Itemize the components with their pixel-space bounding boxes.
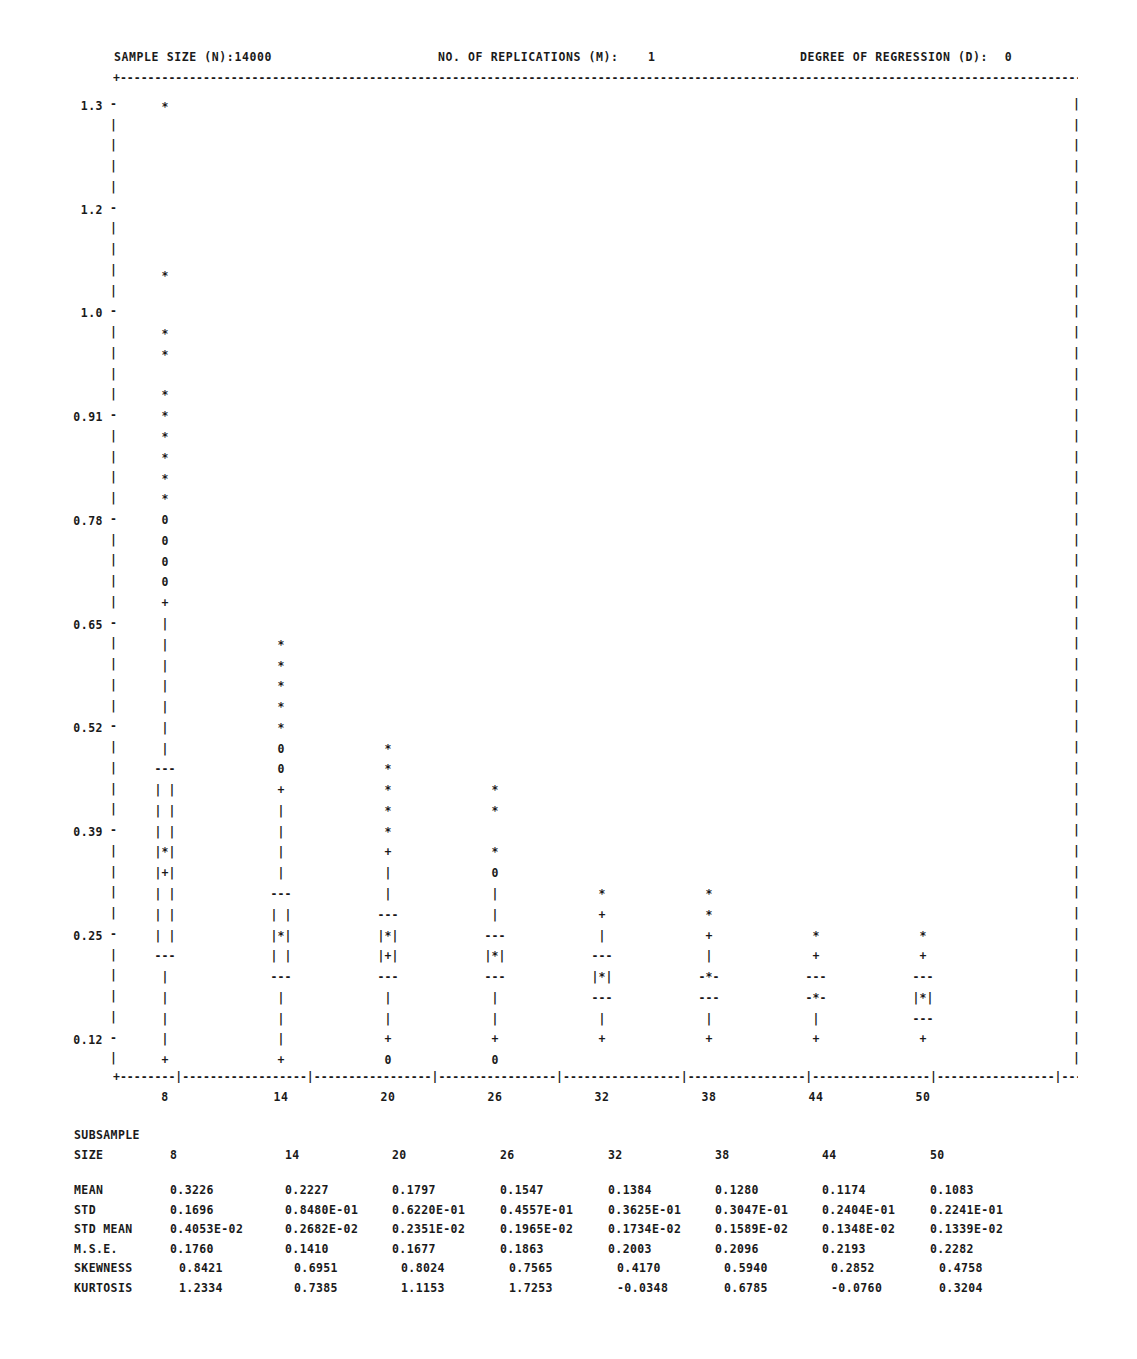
box-hinge-line: --- [786,972,846,984]
stat-cell: 0.4170 [617,1261,661,1275]
stat-cell: 0.2096 [715,1242,759,1256]
whisker-line: | [465,1014,525,1026]
plot-right-border-segment: | [1073,950,1080,962]
boxplot-column-14: *****00+||||---| ||*|| |---|||+ [251,0,311,1000]
stat-cell: 0.3625E-01 [608,1203,681,1217]
y-axis-line-segment: | [110,244,117,256]
outlier-star-marker: * [358,806,418,818]
stat-cell: 0.1174 [822,1183,866,1197]
y-axis-tick-label: 0.39 [55,825,103,839]
y-axis-tick-label: 0.12 [55,1033,103,1047]
boxplot-column-50: *+---|*|---+ [893,0,953,1000]
plot-right-border-segment: | [1073,555,1080,567]
outlier-star-marker: * [465,847,525,859]
y-axis-line-segment: | [110,680,117,692]
box-body-line: | | [251,910,311,922]
plot-right-border-segment: | [1073,265,1080,277]
box-median-marker: |*| [358,931,418,943]
x-axis-tick-label: 8 [135,1090,195,1104]
whisker-end-marker: + [786,951,846,963]
plot-right-border-segment: | [1073,472,1080,484]
table-spacer [0,1167,1137,1183]
whisker-line: | [135,723,195,735]
outlier-star-marker: * [251,640,311,652]
subsample-size-header: 14 [285,1148,300,1162]
y-axis-tick: - [110,721,117,733]
box-hinge-line: --- [465,931,525,943]
stat-cell: 0.1863 [500,1242,544,1256]
stat-row-label: KURTOSIS [74,1281,133,1295]
whisker-end-marker: + [893,1034,953,1046]
y-axis-line-segment: | [110,991,117,1003]
y-axis-tick-label: 0.25 [55,929,103,943]
stat-row-label: SKEWNESS [74,1261,133,1275]
whisker-line: | [251,847,311,859]
y-axis-line-segment: | [110,576,117,588]
stat-cell: 0.1677 [392,1242,436,1256]
size-label: SIZE [74,1148,103,1162]
outlier-star-marker: * [679,889,739,901]
x-axis-tick-label: 38 [679,1090,739,1104]
plot-right-border-segment: | [1073,825,1080,837]
plot-right-border-segment: | [1073,1033,1080,1045]
y-axis-line-segment: | [110,120,117,132]
box-median-marker: |*| [465,951,525,963]
box-hinge-line: --- [251,889,311,901]
plot-right-border-segment: | [1073,410,1080,422]
whisker-end-marker: + [358,1034,418,1046]
box-median-marker: |*| [572,972,632,984]
box-hinge-line: --- [465,972,525,984]
y-axis-tick: - [110,99,117,111]
stat-cell: 0.2682E-02 [285,1222,358,1236]
y-axis-line-segment: | [110,742,117,754]
outlier-circle-marker: 0 [135,577,195,589]
y-axis-line-segment: | [110,950,117,962]
stat-cell: 0.1547 [500,1183,544,1197]
whisker-line: | [135,681,195,693]
y-axis-line-segment: | [110,804,117,816]
outlier-circle-marker: 0 [465,1055,525,1067]
table-row: STD0.16960.8480E-010.6220E-010.4557E-010… [0,1203,1137,1223]
y-axis-line-segment: | [110,431,117,443]
whisker-end-marker: + [786,1034,846,1046]
box-body-line: | | [135,910,195,922]
y-axis-line-segment: | [110,265,117,277]
plot-right-border-segment: | [1073,286,1080,298]
plot-right-border-segment: | [1073,389,1080,401]
outlier-star-marker: * [679,910,739,922]
whisker-end-marker: + [572,1034,632,1046]
whisker-line: | [135,993,195,1005]
plot-right-border-segment: | [1073,784,1080,796]
x-axis-labels: 814202632384450 [0,1090,1137,1108]
y-axis-line-segment: | [110,327,117,339]
whisker-line: | [251,1014,311,1026]
plot-right-border-segment: | [1073,721,1080,733]
stat-cell: 0.1348E-02 [822,1222,895,1236]
y-axis-labels: 1.31.21.00.910.780.650.520.390.250.12 [55,0,103,1000]
whisker-line: | [135,744,195,756]
whisker-line: | [135,640,195,652]
stat-cell: 0.1965E-02 [500,1222,573,1236]
y-axis-line-segment: | [110,1053,117,1065]
stat-cell: 1.1153 [401,1281,445,1295]
box-hinge-line: --- [893,972,953,984]
box-hinge-line: --- [358,910,418,922]
table-row: M.S.E.0.17600.14100.16770.18630.20030.20… [0,1242,1137,1262]
y-axis-line-segment: | [110,182,117,194]
stat-cell: 0.1589E-02 [715,1222,788,1236]
box-body-line: | | [251,951,311,963]
stat-cell: 0.6951 [294,1261,338,1275]
stat-cell: 0.8421 [179,1261,223,1275]
whisker-line: | [251,806,311,818]
plot-right-border-segment: | [1073,887,1080,899]
plot-right-border-segment: | [1073,369,1080,381]
whisker-line: | [251,1034,311,1046]
boxplot-column-38: **+|-*----|+ [679,0,739,1000]
table-row: STD MEAN0.4053E-020.2682E-020.2351E-020.… [0,1222,1137,1242]
whisker-line: | [572,931,632,943]
stat-cell: 0.4557E-01 [500,1203,573,1217]
whisker-end-marker: + [358,847,418,859]
box-median-marker: -*- [679,972,739,984]
statistics-table: SUBSAMPLE SIZE 814202632384450 MEAN0.322… [0,1128,1137,1300]
subsample-size-header: 32 [608,1148,623,1162]
